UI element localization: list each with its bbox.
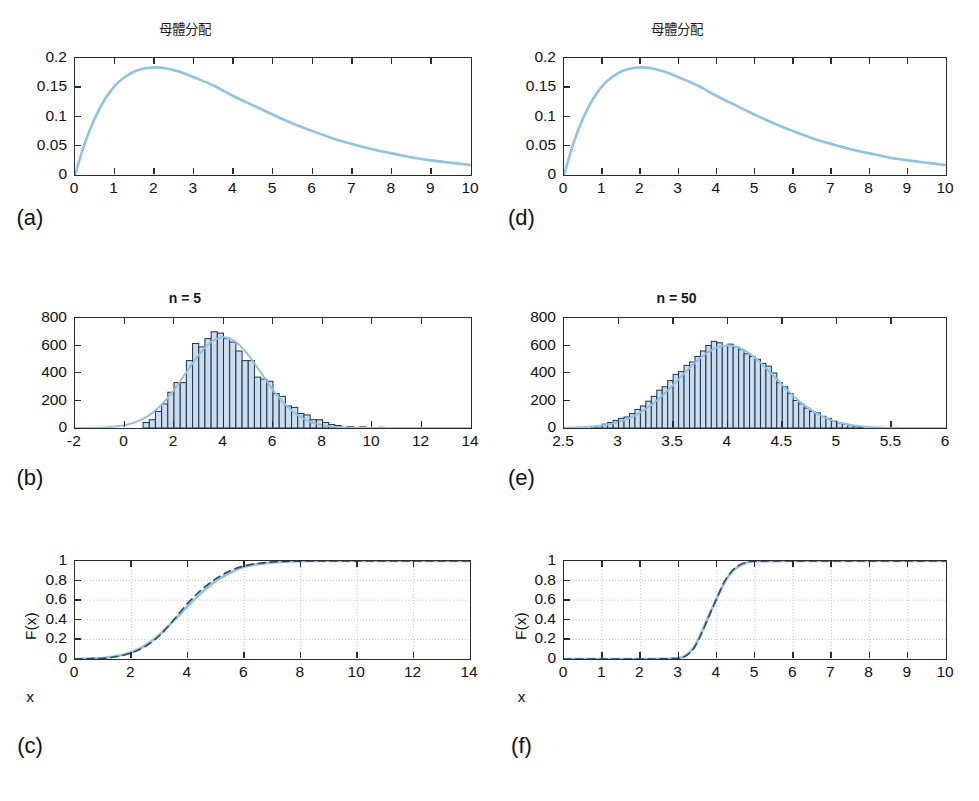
x-tick-mark-top	[830, 58, 831, 64]
y-tick-label: 0.05	[526, 136, 556, 154]
x-tick-label: 3	[188, 179, 197, 197]
x-tick-mark-top	[618, 318, 619, 324]
x-tick-mark	[601, 652, 602, 658]
x-tick-mark-top	[716, 561, 717, 567]
y-tick-label: 0.15	[526, 77, 556, 95]
y-tick-label: 0	[547, 165, 556, 183]
panel-a-plot-area	[74, 57, 472, 176]
panel-d-label: (d)	[277, 205, 766, 231]
x-tick-label: 8	[864, 179, 873, 197]
x-tick-label: 4	[218, 432, 227, 450]
x-tick-label: 10	[362, 432, 379, 450]
x-tick-mark-top	[430, 58, 431, 64]
y-tick-label: 800	[41, 308, 67, 326]
y-tick-label: 0	[547, 649, 556, 667]
x-tick-mark	[243, 652, 244, 658]
x-tick-mark	[272, 168, 273, 174]
y-tick-label: 0.2	[534, 629, 556, 647]
x-tick-mark	[754, 652, 755, 658]
x-tick-mark	[223, 421, 224, 427]
x-tick-mark	[639, 168, 640, 174]
y-tick-label: 200	[41, 391, 67, 409]
panel-a-title: 母體分配	[0, 18, 430, 38]
x-tick-mark-top	[792, 58, 793, 64]
x-tick-mark-top	[639, 58, 640, 64]
y-tick-label: 0.2	[45, 629, 67, 647]
panel-c: 00.20.40.60.81 02468101214 F(x) x (c)	[0, 530, 490, 801]
x-tick-mark-top	[300, 561, 301, 567]
x-tick-mark	[781, 421, 782, 427]
x-tick-label: 0	[70, 179, 79, 197]
clt-figure: 母體分配 00.050.10.150.2 012345678910 (a) n …	[0, 0, 979, 801]
x-tick-mark	[371, 421, 372, 427]
x-tick-mark	[727, 421, 728, 427]
x-tick-label: 6	[239, 663, 248, 681]
x-tick-label: 5	[268, 179, 277, 197]
x-tick-label: 14	[460, 663, 477, 681]
y-tick-mark	[75, 372, 81, 373]
panel-b-title: n = 5	[0, 290, 430, 306]
panel-d-plot-area	[563, 57, 947, 176]
x-tick-mark-top	[421, 318, 422, 324]
y-tick-mark	[75, 619, 81, 620]
x-tick-label: 6	[268, 432, 277, 450]
x-tick-label: 9	[902, 179, 911, 197]
x-tick-label: 3	[673, 179, 682, 197]
x-tick-mark	[907, 168, 908, 174]
y-tick-label: 0.8	[534, 571, 556, 589]
panel-a-label: (a)	[0, 205, 275, 231]
y-tick-label: 0.15	[37, 77, 67, 95]
y-tick-mark	[564, 400, 570, 401]
x-tick-mark-top	[907, 58, 908, 64]
x-tick-mark	[232, 168, 233, 174]
x-tick-mark	[356, 652, 357, 658]
y-tick-mark	[564, 638, 570, 639]
y-tick-mark	[75, 638, 81, 639]
x-tick-mark-top	[187, 561, 188, 567]
x-tick-label: 5	[750, 663, 759, 681]
x-tick-label: 10	[936, 663, 953, 681]
x-tick-mark-top	[312, 58, 313, 64]
x-tick-mark-top	[639, 561, 640, 567]
x-tick-mark	[312, 168, 313, 174]
x-tick-mark-top	[672, 318, 673, 324]
x-tick-label: 5.5	[880, 432, 902, 450]
x-tick-mark-top	[781, 318, 782, 324]
x-tick-mark	[173, 421, 174, 427]
panel-f-y-axis-label: F(x)	[512, 612, 530, 640]
x-tick-label: 4	[711, 663, 720, 681]
panel-e-plot-area	[563, 317, 947, 429]
x-tick-mark	[836, 421, 837, 427]
x-tick-label: 12	[412, 432, 429, 450]
panel-f-plot-area	[563, 560, 947, 660]
x-tick-label: 5	[750, 179, 759, 197]
x-tick-mark	[300, 652, 301, 658]
y-tick-mark	[564, 619, 570, 620]
x-tick-mark-top	[356, 561, 357, 567]
x-tick-label: 4.5	[771, 432, 793, 450]
x-tick-label: 9	[426, 179, 435, 197]
x-tick-label: 9	[902, 663, 911, 681]
x-tick-label: 7	[826, 663, 835, 681]
x-tick-label: 10	[936, 179, 953, 197]
x-tick-label: 3	[673, 663, 682, 681]
panel-c-y-axis-label: F(x)	[22, 612, 40, 640]
x-tick-mark	[618, 421, 619, 427]
x-tick-mark	[672, 421, 673, 427]
panel-b-label: (b)	[0, 465, 275, 491]
y-tick-label: 0	[58, 418, 67, 436]
y-tick-label: 0.05	[37, 136, 67, 154]
x-tick-mark	[187, 652, 188, 658]
y-tick-label: 0	[58, 649, 67, 667]
panel-d-title: 母體分配	[432, 18, 921, 38]
x-tick-mark-top	[223, 318, 224, 324]
x-tick-mark-top	[754, 58, 755, 64]
y-tick-mark	[564, 116, 570, 117]
x-tick-mark	[153, 168, 154, 174]
x-tick-label: 10	[348, 663, 365, 681]
x-tick-mark-top	[601, 561, 602, 567]
x-tick-mark	[124, 421, 125, 427]
x-tick-mark-top	[232, 58, 233, 64]
x-tick-label: 3	[613, 432, 622, 450]
y-tick-label: 0.1	[45, 107, 67, 125]
